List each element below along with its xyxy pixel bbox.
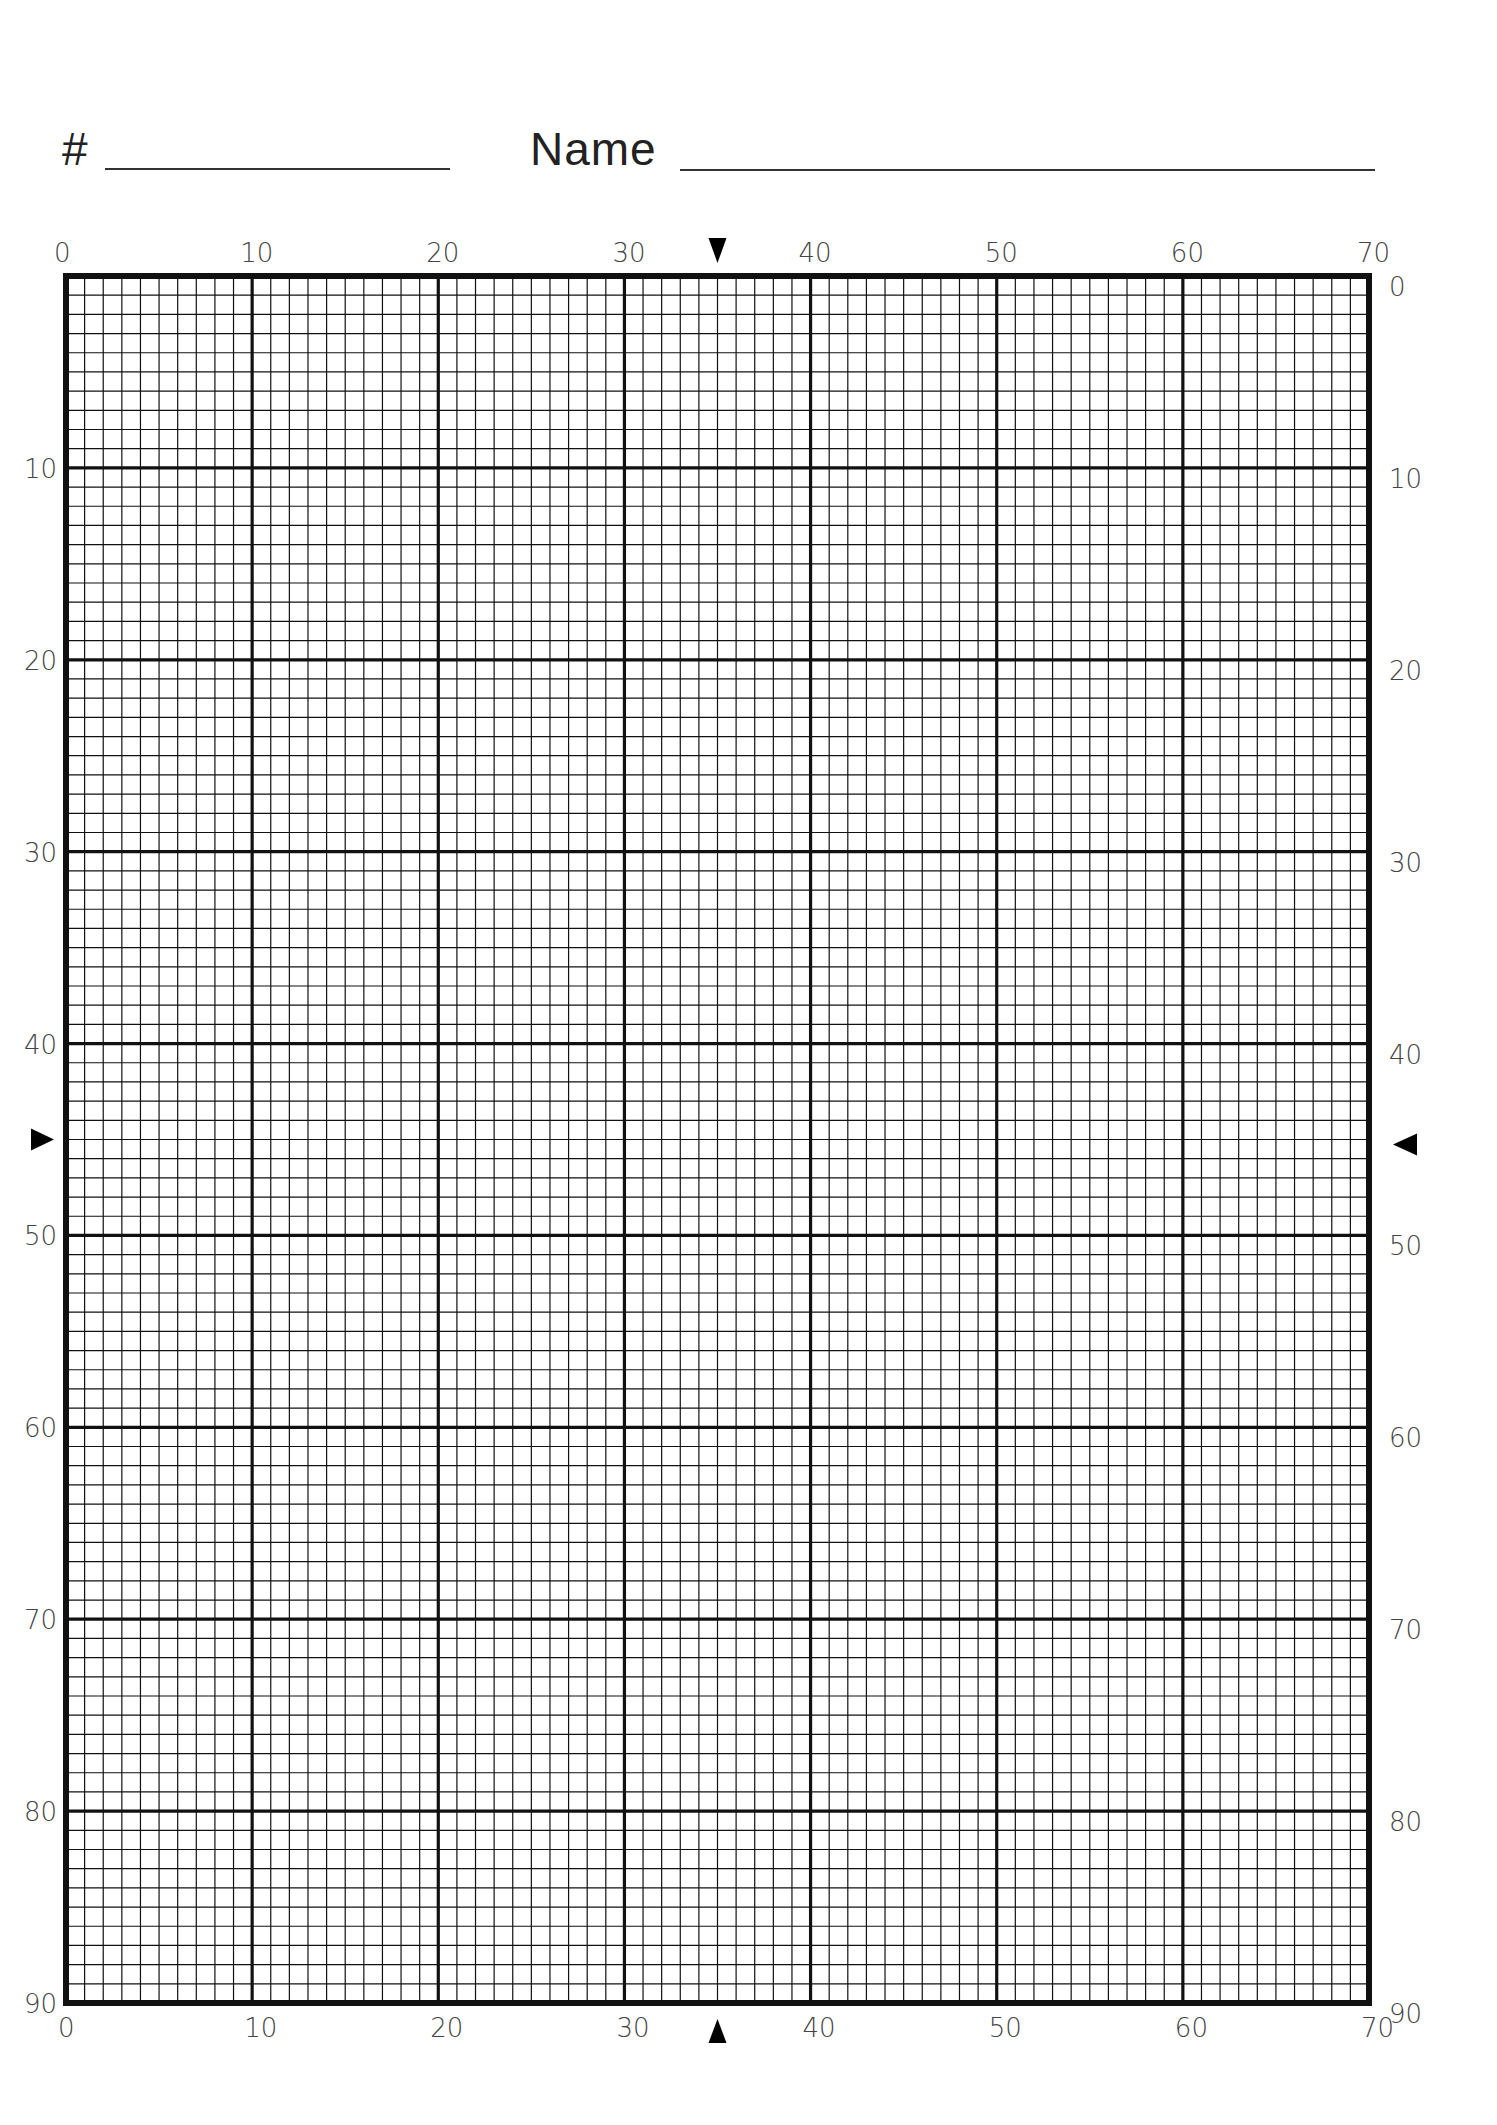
y-axis-right-label: 10: [1389, 464, 1422, 494]
x-axis-top-label: 10: [240, 238, 273, 268]
y-axis-right-label: 60: [1389, 1423, 1422, 1453]
y-axis-right-label: 50: [1389, 1231, 1422, 1261]
y-axis-left-label: 80: [24, 1797, 57, 1827]
y-axis-left-label: 70: [24, 1605, 57, 1635]
y-axis-left-label: 50: [24, 1221, 57, 1251]
y-axis-left-label: 20: [24, 646, 57, 676]
x-axis-bottom-label: 60: [1175, 2013, 1208, 2043]
graph-paper-grid: 0010102020303040405050606070700101020203…: [0, 0, 1497, 2125]
x-axis-bottom-label: 30: [616, 2013, 649, 2043]
y-axis-right-label: 30: [1389, 848, 1422, 878]
x-axis-top-label: 20: [426, 238, 459, 268]
x-axis-top-label: 70: [1357, 238, 1390, 268]
y-axis-right-label: 20: [1389, 656, 1422, 686]
x-axis-bottom-label: 20: [430, 2013, 463, 2043]
x-axis-bottom-label: 0: [58, 2013, 75, 2043]
x-axis-top-label: 50: [985, 238, 1018, 268]
y-axis-right-label: 70: [1389, 1615, 1422, 1645]
center-marker-left-icon: [31, 1129, 54, 1151]
y-axis-right-label: 0: [1389, 272, 1406, 302]
x-axis-top-label: 30: [612, 238, 645, 268]
center-marker-bottom-icon: [709, 2019, 727, 2043]
y-axis-right-label: 40: [1389, 1040, 1422, 1070]
y-axis-left-label: 30: [24, 838, 57, 868]
y-axis-left-label: 40: [24, 1030, 57, 1060]
x-axis-bottom-label: 50: [989, 2013, 1022, 2043]
y-axis-right-label: 90: [1389, 1999, 1422, 2029]
x-axis-bottom-label: 10: [244, 2013, 277, 2043]
y-axis-left-label: 10: [24, 454, 57, 484]
center-marker-right-icon: [1393, 1134, 1417, 1156]
x-axis-top-label: 0: [54, 238, 71, 268]
y-axis-left-label: 90: [24, 1989, 57, 2019]
x-axis-top-label: 40: [799, 238, 832, 268]
x-axis-top-label: 60: [1171, 238, 1204, 268]
y-axis-left-label: 60: [24, 1413, 57, 1443]
y-axis-right-label: 80: [1389, 1807, 1422, 1837]
center-marker-top-icon: [709, 238, 727, 263]
x-axis-bottom-label: 40: [803, 2013, 836, 2043]
